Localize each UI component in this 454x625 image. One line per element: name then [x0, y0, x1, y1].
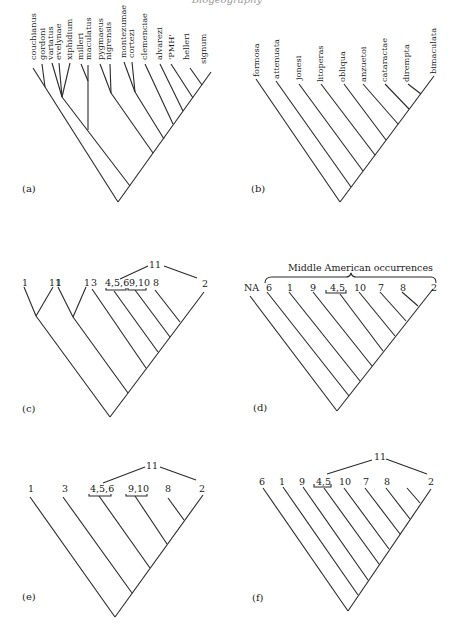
- area-label: 8: [400, 282, 406, 293]
- panel-e-label: (e): [22, 591, 36, 602]
- area-label: 9,10: [128, 483, 149, 494]
- area-label: 10: [354, 282, 366, 293]
- taxon-label: nigrensis: [103, 22, 113, 60]
- taxon-label: alvarezi: [154, 27, 164, 60]
- taxon-label: evelynae: [53, 23, 63, 60]
- panel-d-label: (d): [253, 402, 267, 413]
- area-label: 4,5,6: [105, 277, 129, 288]
- taxon-label: formosa: [251, 43, 261, 77]
- area-label: 2: [431, 282, 437, 293]
- taxon-label: xiphidium: [64, 18, 74, 60]
- area-label: 8: [153, 277, 159, 288]
- panel-d-cladogram: Middle American occurrences NA 6 1 9 4,5…: [244, 262, 437, 413]
- taxon-label: signum: [198, 33, 208, 64]
- area-label: 1: [56, 277, 62, 288]
- area-label: 9: [310, 282, 316, 293]
- taxon-label: litoperas: [315, 45, 325, 82]
- panel-c-label: (c): [22, 403, 36, 414]
- area-label: 7: [378, 282, 384, 293]
- panel-f-cladogram: 11 6 1 9 4,5 10 7 8 2 (f): [252, 451, 434, 611]
- area-label: 3: [91, 277, 97, 288]
- area-label: 2: [199, 483, 205, 494]
- taxon-label: jonesi: [293, 55, 303, 81]
- area-label: NA: [244, 282, 259, 293]
- area-label: 1: [279, 476, 285, 487]
- area-label: 1: [22, 277, 28, 288]
- area-label: 1: [84, 277, 90, 288]
- taxon-label: clemenciae: [139, 13, 149, 60]
- top-area-label: 11: [149, 259, 161, 270]
- panel-a-cladogram: couchianus gordoni variatus evelynae xip…: [22, 5, 211, 202]
- area-label: 3: [62, 483, 68, 494]
- panel-b-label: (b): [251, 183, 265, 194]
- taxon-label: cataractae: [379, 38, 389, 82]
- taxon-label: obliqua: [337, 51, 347, 82]
- taxon-label: dirempta: [401, 44, 411, 82]
- area-label: 6: [259, 476, 265, 487]
- area-label: 2: [428, 476, 434, 487]
- taxon-label: maculatus: [83, 17, 93, 60]
- area-label: 4,5,6: [90, 483, 114, 494]
- panel-c-cladogram: 11 1 11 1 1 3 4,5,6 9,10 8 2 (c): [22, 259, 208, 417]
- panel-a-label: (a): [22, 183, 36, 194]
- area-label: 2: [202, 278, 208, 289]
- area-label: 8: [384, 476, 390, 487]
- top-area-label: 11: [146, 460, 158, 471]
- area-label: 9: [299, 476, 305, 487]
- taxon-label: attenuata: [271, 39, 281, 79]
- area-label: 10: [339, 476, 351, 487]
- panel-f-label: (f): [252, 592, 264, 603]
- area-label: 7: [363, 476, 369, 487]
- area-label: 8: [165, 483, 171, 494]
- middle-american-bracket-label: Middle American occurrences: [288, 262, 433, 273]
- taxon-label: 'PMH': [166, 34, 176, 60]
- area-label: 4,5: [330, 282, 345, 293]
- area-label: 1: [28, 483, 34, 494]
- panel-b-cladogram: formosa attenuata jonesi litoperas obliq…: [251, 28, 438, 202]
- taxon-label: anzuetoi: [358, 46, 368, 82]
- taxon-label: helleri: [181, 33, 191, 60]
- cladogram-figure: couchianus gordoni variatus evelynae xip…: [0, 0, 454, 625]
- taxon-label: cortezi: [126, 29, 136, 58]
- panel-e-cladogram: 11 1 3 4,5,6 9,10 8 2 (e): [22, 460, 205, 617]
- top-area-label: 11: [374, 451, 386, 462]
- area-label: 1: [287, 282, 293, 293]
- area-label: 9,10: [129, 277, 150, 288]
- area-label: 4,5: [316, 476, 331, 487]
- taxon-label: bimaculata: [428, 28, 438, 74]
- area-label: 6: [266, 282, 272, 293]
